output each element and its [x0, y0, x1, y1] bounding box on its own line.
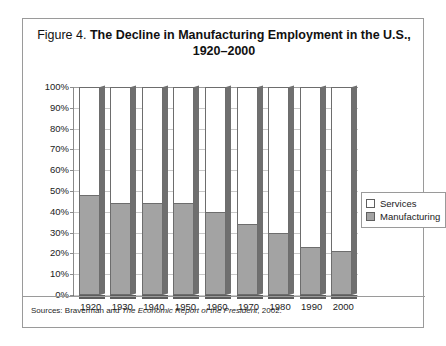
bar-segment-manufacturing[interactable]: [173, 203, 194, 295]
bar-segment-manufacturing[interactable]: [110, 203, 131, 295]
bar-segment-manufacturing[interactable]: [79, 195, 100, 295]
y-axis-tick-label: 100%: [31, 82, 69, 92]
legend-swatch-services-icon: [366, 199, 375, 208]
source-title: The Economic Report of the President: [122, 306, 258, 315]
bar-side-face: [289, 86, 294, 295]
figure-caption-line2: 1920–2000: [193, 44, 256, 58]
y-axis-tick-label: 90%: [31, 103, 69, 113]
figure-frame: Figure 4. The Decline in Manufacturing E…: [22, 18, 424, 328]
chart-legend: Services Manufacturing: [361, 192, 446, 228]
source-prefix: Sources: Braverman and: [31, 306, 122, 315]
bar-segment-manufacturing[interactable]: [142, 203, 163, 295]
bar-column[interactable]: [237, 87, 258, 295]
bar-column[interactable]: [268, 87, 289, 295]
y-axis-tick-label: 10%: [31, 269, 69, 279]
bar-side-face: [163, 86, 168, 295]
bar-side-face: [321, 86, 326, 295]
bar-segment-manufacturing[interactable]: [205, 212, 226, 295]
y-axis-tick-label: 80%: [31, 124, 69, 134]
bar-segment-manufacturing[interactable]: [237, 224, 258, 295]
legend-label-services: Services: [380, 198, 416, 209]
bar-column[interactable]: [205, 87, 226, 295]
bar-segment-manufacturing[interactable]: [268, 233, 289, 295]
bar-side-face: [131, 86, 136, 295]
bar-segment-manufacturing[interactable]: [300, 247, 321, 295]
y-axis-tick-label: 0%: [31, 290, 69, 300]
bar-column[interactable]: [79, 87, 100, 295]
legend-label-manufacturing: Manufacturing: [380, 211, 440, 222]
figure-caption-line1: The Decline in Manufacturing Employment …: [90, 28, 411, 42]
bar-column[interactable]: [331, 87, 352, 295]
y-axis-tick-label: 20%: [31, 249, 69, 259]
legend-item-services[interactable]: Services: [366, 197, 440, 210]
figure-title: Figure 4. The Decline in Manufacturing E…: [31, 27, 417, 59]
bar-column[interactable]: [110, 87, 131, 295]
source-divider: [23, 296, 425, 297]
bar-side-face: [226, 86, 231, 295]
bars-layer: [74, 87, 358, 295]
source-suffix: , 2002.: [257, 306, 281, 315]
legend-swatch-manufacturing-icon: [366, 212, 375, 221]
plot-area: [73, 87, 358, 296]
bar-side-face: [194, 86, 199, 295]
y-axis-tick-label: 30%: [31, 228, 69, 238]
bar-column[interactable]: [300, 87, 321, 295]
bar-side-face: [258, 86, 263, 295]
y-axis-tick-label: 70%: [31, 145, 69, 155]
y-axis-labels: 100%90%80%70%60%50%40%30%20%10%0%: [31, 87, 69, 295]
bar-column[interactable]: [173, 87, 194, 295]
figure-number: Figure 4.: [37, 28, 86, 42]
legend-item-manufacturing[interactable]: Manufacturing: [366, 210, 440, 223]
bar-segment-manufacturing[interactable]: [331, 251, 352, 295]
bar-side-face: [100, 86, 105, 295]
bar-side-face: [352, 86, 357, 295]
chart-area: 100%90%80%70%60%50%40%30%20%10%0% 192019…: [23, 63, 425, 295]
source-note: Sources: Braverman and The Economic Repo…: [31, 306, 417, 316]
y-axis-tick-label: 50%: [31, 186, 69, 196]
y-axis-tick-label: 40%: [31, 207, 69, 217]
y-axis-tick-label: 60%: [31, 165, 69, 175]
bar-column[interactable]: [142, 87, 163, 295]
